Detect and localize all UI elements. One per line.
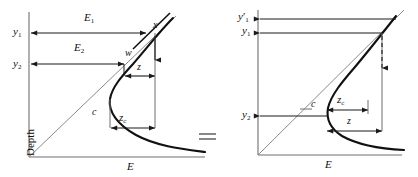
label-right-z: z bbox=[347, 116, 351, 126]
label-left-w: w bbox=[125, 48, 132, 58]
left-panel bbox=[29, 12, 205, 157]
label-left-depth-axis: Depth bbox=[24, 129, 36, 156]
label-left-E1: E1 bbox=[84, 12, 94, 25]
edge-rule-artifact bbox=[199, 134, 216, 139]
label-left-c: c bbox=[92, 107, 96, 117]
figure-canvas: y1 y2 E1 E2 x w z c zc Depth E y′1 y1 y2… bbox=[0, 0, 418, 177]
left-energy-curve bbox=[110, 18, 205, 152]
right-panel bbox=[258, 10, 404, 155]
label-left-y2: y2 bbox=[13, 58, 21, 71]
right-energy-curve bbox=[328, 16, 404, 150]
left-45-degree-line bbox=[29, 16, 176, 157]
diagram-svg bbox=[0, 0, 418, 177]
label-left-E-axis: E bbox=[127, 160, 134, 172]
label-left-E2: E2 bbox=[74, 42, 84, 55]
label-right-E-axis: E bbox=[325, 158, 332, 170]
label-left-x: x bbox=[153, 20, 157, 30]
label-left-z: z bbox=[137, 62, 141, 72]
label-right-y2: y2 bbox=[242, 109, 250, 122]
label-right-y1: y1 bbox=[242, 25, 250, 38]
label-left-zc: zc bbox=[119, 112, 126, 125]
label-right-y1-prime: y′1 bbox=[238, 11, 249, 24]
label-right-c: c bbox=[311, 99, 315, 109]
label-right-zc: zc bbox=[337, 94, 344, 107]
label-left-y1: y1 bbox=[13, 26, 21, 39]
